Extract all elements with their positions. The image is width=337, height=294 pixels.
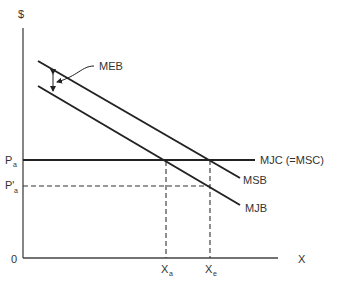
mjb-curve (38, 86, 240, 205)
quantity-label-xa: X a (161, 263, 173, 277)
meb-label: MEB (99, 60, 123, 72)
svg-text:a: a (14, 187, 18, 194)
mjb-label: MJB (245, 202, 267, 214)
mjc-msc-label: MJC (=MSC) (260, 154, 324, 166)
y-axis-label: $ (18, 8, 24, 20)
price-label-pa-prime: P' a (5, 179, 18, 194)
svg-text:X: X (205, 263, 213, 275)
svg-text:a: a (169, 270, 173, 277)
axes (23, 28, 278, 258)
quantity-label-xe: X e (205, 263, 217, 277)
svg-text:X: X (161, 263, 169, 275)
x-axis-label: X (298, 253, 306, 265)
price-label-pa: P a (5, 154, 17, 168)
economics-diagram: $ X 0 P a P' a X a X e MJC (=MSC) MSB MJ… (0, 0, 337, 294)
dashed-guides (23, 160, 210, 258)
msb-label: MSB (243, 174, 267, 186)
origin-label: 0 (11, 253, 17, 265)
svg-text:P: P (5, 154, 12, 166)
svg-text:e: e (213, 270, 217, 277)
meb-leader-arrow (57, 66, 94, 82)
svg-text:a: a (13, 161, 17, 168)
